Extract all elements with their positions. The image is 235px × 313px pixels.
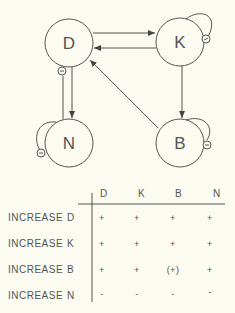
table-cell: + [200,265,220,275]
column-header-d: D [100,188,108,199]
table-cell: + [92,265,112,275]
table-cell: - [163,289,183,299]
table-cell: - [92,289,112,299]
table-cell: + [127,239,147,249]
table-cell: + [200,239,220,249]
table-cell: + [127,213,147,223]
row-label: INCREASE [8,212,63,223]
row-variable: N [67,290,75,301]
table-cell: - [127,289,147,299]
table-cell: + [92,239,112,249]
row-label: INCREASE [8,238,63,249]
effects-table: D K B N INCREASE D + + + + INCREASE K + … [0,0,235,313]
column-header-b: B [175,188,182,199]
table-cell: + [92,213,112,223]
column-header-k: K [138,188,145,199]
row-label: INCREASE [8,264,63,275]
table-cell: + [163,239,183,249]
row-variable: K [67,238,74,249]
table-cell: + [163,213,183,223]
table-cell: (+) [163,265,183,275]
column-header-n: N [213,188,221,199]
row-variable: B [67,264,74,275]
table-cell: + [127,265,147,275]
row-label: INCREASE [8,290,63,301]
row-variable: D [67,212,75,223]
table-cell: + [200,213,220,223]
table-cell: - [200,287,220,297]
